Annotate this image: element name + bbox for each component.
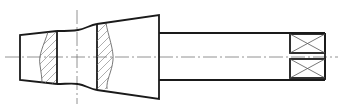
lower-box xyxy=(290,59,325,78)
upper-box xyxy=(290,34,325,53)
shaft-drawing xyxy=(0,0,341,108)
left-taper-outline xyxy=(20,31,57,84)
